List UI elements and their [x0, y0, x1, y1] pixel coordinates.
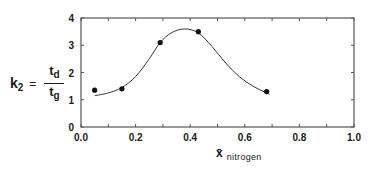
- data-point: [196, 29, 201, 34]
- y-tick-label: 1: [68, 95, 74, 106]
- y-label-lhs: k2: [10, 75, 23, 93]
- fraction-bar: [44, 83, 64, 84]
- y-label-denominator: tg: [47, 85, 61, 103]
- x-axis-ticks: 0.00.20.40.60.81.0: [74, 18, 361, 143]
- y-label-den-sub: g: [53, 90, 59, 101]
- x-label-main: x̄: [216, 146, 223, 160]
- y-axis-label: k2 = td tg: [10, 64, 64, 103]
- fitted-curve: [95, 29, 270, 96]
- y-tick-label: 2: [68, 68, 74, 79]
- y-label-numerator: td: [47, 64, 61, 82]
- x-tick-label: 0.8: [292, 132, 306, 143]
- data-point: [158, 40, 163, 45]
- x-tick-label: 0.4: [183, 132, 197, 143]
- y-label-k: k: [10, 75, 18, 91]
- y-label-num-sub: d: [53, 69, 59, 80]
- y-label-equals: =: [29, 77, 36, 91]
- data-point: [264, 89, 269, 94]
- plot-frame: [81, 18, 354, 127]
- y-label-fraction: td tg: [44, 64, 64, 103]
- data-points: [92, 29, 269, 94]
- y-tick-label: 4: [68, 13, 74, 24]
- x-axis-label: x̄nitrogen: [216, 146, 262, 162]
- y-tick-label: 3: [68, 40, 74, 51]
- x-tick-label: 0.0: [74, 132, 88, 143]
- plot-border: [81, 18, 354, 127]
- data-point: [92, 88, 97, 93]
- x-tick-label: 0.2: [129, 132, 143, 143]
- x-label-sub: nitrogen: [227, 152, 262, 162]
- y-tick-label: 0: [68, 122, 74, 133]
- x-tick-label: 0.6: [238, 132, 252, 143]
- y-label-k-sub: 2: [18, 82, 24, 93]
- data-point: [119, 86, 124, 91]
- x-tick-label: 1.0: [347, 132, 361, 143]
- y-axis-ticks: 01234: [68, 13, 354, 133]
